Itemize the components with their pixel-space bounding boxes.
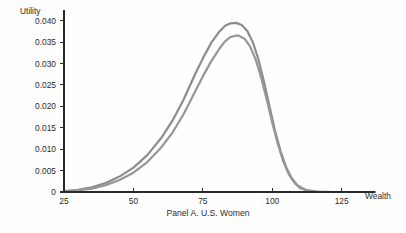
x-axis-title: Wealth (365, 191, 391, 201)
figure-panel-a: 00.0050.0100.0150.0200.0250.0300.0350.04… (0, 0, 406, 233)
data-curves-layer (64, 23, 375, 192)
chart-canvas: 00.0050.0100.0150.0200.0250.0300.0350.04… (0, 0, 406, 233)
y-axis-title: Utility (20, 6, 41, 16)
x-tick-label: 125 (335, 196, 349, 206)
axis-labels-layer: 00.0050.0100.0150.0200.0250.0300.0350.04… (35, 16, 349, 206)
figure-caption: Panel A. U.S. Women (167, 208, 250, 218)
axes-layer (60, 10, 375, 192)
y-tick-label: 0 (51, 187, 56, 197)
y-tick-label: 0.005 (35, 166, 56, 176)
x-tick-label: 25 (59, 196, 69, 206)
x-tick-label: 100 (265, 196, 279, 206)
y-tick-label: 0.020 (35, 101, 56, 111)
y-tick-label: 0.010 (35, 144, 56, 154)
x-tick-label: 50 (129, 196, 139, 206)
y-tick-label: 0.030 (35, 59, 56, 69)
y-tick-label: 0.040 (35, 16, 56, 26)
y-tick-label: 0.025 (35, 80, 56, 90)
x-tick-label: 75 (198, 196, 208, 206)
data-curve-curve-lower (64, 36, 375, 192)
y-tick-label: 0.035 (35, 37, 56, 47)
y-tick-label: 0.015 (35, 123, 56, 133)
